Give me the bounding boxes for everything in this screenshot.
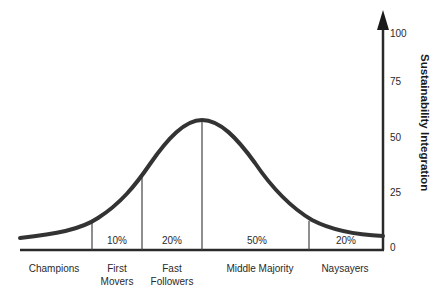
pct-naysayers: 20% <box>329 235 363 246</box>
ytick-100: 100 <box>390 28 407 39</box>
ytick-50: 50 <box>390 132 401 143</box>
pct-middle-majority: 50% <box>240 235 274 246</box>
adoption-curve-diagram <box>0 0 441 299</box>
label-first-movers: First Movers <box>95 262 139 288</box>
y-axis-title: Sustainability Integration <box>419 54 431 191</box>
ytick-75: 75 <box>390 76 401 87</box>
ytick-25: 25 <box>390 187 401 198</box>
label-fast-followers: Fast Followers <box>145 262 199 288</box>
label-naysayers: Naysayers <box>310 262 380 275</box>
label-champions: Champions <box>22 262 86 275</box>
y-axis-arrow-icon <box>377 10 389 30</box>
label-middle-majority: Middle Majority <box>215 262 305 275</box>
pct-first-movers: 10% <box>100 235 134 246</box>
ytick-0: 0 <box>390 242 396 253</box>
pct-fast-followers: 20% <box>155 235 189 246</box>
